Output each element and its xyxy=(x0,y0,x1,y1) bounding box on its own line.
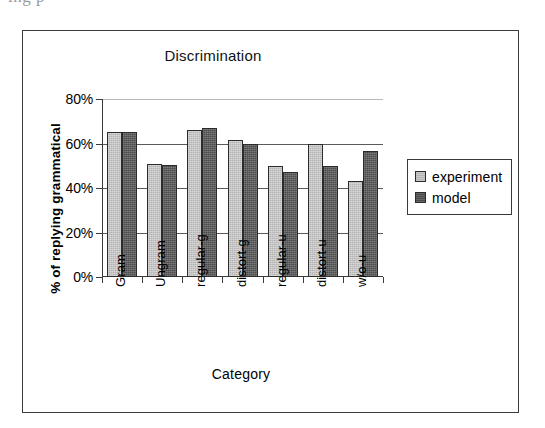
chart-title: Discrimination xyxy=(23,47,403,64)
y-tick-label: 0% xyxy=(73,269,93,285)
model-swatch xyxy=(415,192,426,203)
x-category-label-distort-u: distort-u xyxy=(314,239,329,287)
plot-area: 80%60%40%20%0% GramUngramregular-gdistor… xyxy=(102,99,383,277)
x-tick-mark xyxy=(222,277,223,283)
chart-legend: experimentmodel xyxy=(407,159,512,215)
x-category-label-regular-g: regular-g xyxy=(193,234,208,287)
x-axis-title: Category xyxy=(91,366,391,382)
gridline-80% xyxy=(102,99,383,100)
x-category-label-Gram: Gram xyxy=(113,254,128,287)
page-scan-bleed: ing p xyxy=(0,0,545,22)
y-tick-label: 80% xyxy=(66,91,93,107)
legend-label: experiment xyxy=(432,169,502,185)
figure-frame: Discrimination % of replying grammatical… xyxy=(22,30,519,413)
y-tick-label: 40% xyxy=(66,180,93,196)
x-tick-mark xyxy=(343,277,344,283)
bleed-text: ing p xyxy=(8,0,45,7)
x-category-label-regular-u: regular-u xyxy=(274,234,289,287)
x-category-label-Ungram: Ungram xyxy=(153,240,168,287)
x-category-label-distort-g: distort-g xyxy=(234,239,249,287)
y-tick-label: 60% xyxy=(66,136,93,152)
y-tick-mark xyxy=(96,233,102,234)
y-tick-mark xyxy=(96,188,102,189)
legend-label: model xyxy=(432,190,471,206)
y-axis-title: % of replying grammatical xyxy=(48,109,63,309)
y-tick-mark xyxy=(96,144,102,145)
value-axis-line xyxy=(102,99,103,277)
legend-entry-model: model xyxy=(415,187,502,208)
x-category-label-w/o-u: w/o-u xyxy=(354,255,369,287)
x-tick-mark xyxy=(303,277,304,283)
legend-entry-experiment: experiment xyxy=(415,166,502,187)
y-tick-label: 20% xyxy=(66,225,93,241)
x-tick-mark xyxy=(263,277,264,283)
x-tick-mark xyxy=(142,277,143,283)
x-tick-mark xyxy=(383,277,384,283)
y-tick-mark xyxy=(96,99,102,100)
experiment-swatch xyxy=(415,171,426,182)
x-tick-mark xyxy=(182,277,183,283)
x-tick-mark xyxy=(102,277,103,283)
